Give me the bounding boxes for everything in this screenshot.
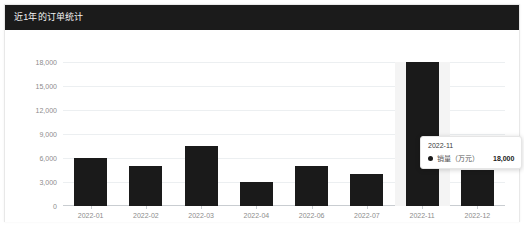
chart-card: 近1年的订单统计 03,0006,0009,00012,00015,00018,… [4, 4, 520, 222]
x-axis-label: 2022-06 [299, 212, 325, 219]
series-marker-icon [428, 156, 433, 161]
tooltip-title: 2022-11 [428, 142, 514, 149]
x-axis-label: 2022-11 [410, 212, 435, 219]
y-axis-label: 3,000 [39, 179, 57, 186]
x-axis-label: 2022-07 [354, 212, 380, 219]
bar-2022-12[interactable] [461, 170, 494, 206]
page-title: 近1年的订单统计 [14, 11, 84, 23]
bar-chart[interactable]: 03,0006,0009,00012,00015,00018,0002022-0… [5, 30, 521, 222]
bar-2022-02[interactable] [129, 166, 162, 206]
x-axis-label: 2022-01 [78, 212, 104, 219]
chart-tooltip: 2022-11 销量（万元） 18,000 [420, 136, 522, 169]
x-axis-label: 2022-04 [244, 212, 270, 219]
bar-2022-11[interactable] [406, 62, 439, 206]
y-axis-label: 15,000 [36, 83, 57, 90]
y-axis-label: 12,000 [36, 107, 57, 114]
x-axis-label: 2022-12 [465, 212, 491, 219]
x-axis-tick [256, 206, 257, 209]
x-axis-tick [422, 206, 423, 209]
x-axis-label: 2022-03 [188, 212, 214, 219]
bar-2022-04[interactable] [240, 182, 273, 206]
x-axis-tick [477, 206, 478, 209]
card-body: 03,0006,0009,00012,00015,00018,0002022-0… [5, 30, 519, 222]
x-axis-tick [146, 206, 147, 209]
x-axis-tick [91, 206, 92, 209]
x-axis-tick [312, 206, 313, 209]
plot-area[interactable]: 03,0006,0009,00012,00015,00018,0002022-0… [63, 62, 505, 206]
y-axis-label: 0 [53, 203, 57, 210]
bar-2022-06[interactable] [295, 166, 328, 206]
tooltip-row: 销量（万元） 18,000 [428, 153, 514, 163]
bar-2022-07[interactable] [350, 174, 383, 206]
x-axis-tick [367, 206, 368, 209]
card-header: 近1年的订单统计 [5, 5, 519, 30]
bar-2022-03[interactable] [185, 146, 218, 206]
tooltip-series-label: 销量（万元） [437, 153, 479, 163]
tooltip-value: 18,000 [483, 155, 514, 162]
x-axis-label: 2022-02 [133, 212, 159, 219]
bar-2022-01[interactable] [74, 158, 107, 206]
y-axis-label: 18,000 [36, 59, 57, 66]
y-axis-label: 6,000 [39, 155, 57, 162]
x-axis-tick [201, 206, 202, 209]
y-axis-label: 9,000 [39, 131, 57, 138]
